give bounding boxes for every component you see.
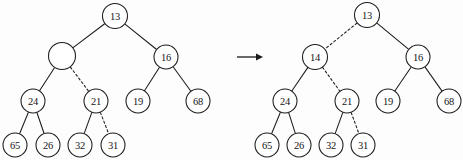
- node-label: 14: [310, 52, 321, 63]
- tree-node-68[interactable]: 68: [437, 89, 461, 113]
- tree-node-empty[interactable]: [49, 43, 76, 70]
- tree-node-21[interactable]: 21: [84, 89, 108, 113]
- node-label: 31: [358, 140, 368, 151]
- tree-edge-n21-n32: [84, 113, 92, 134]
- tree-edge-m14-m24: [292, 68, 308, 91]
- node-label: 19: [133, 96, 143, 107]
- tree-edge-m13-m16: [377, 23, 408, 49]
- tree-edge-nEmpty-n24: [40, 68, 55, 91]
- edges-layer: [20, 23, 442, 133]
- tree-node-68[interactable]: 68: [186, 89, 210, 113]
- tree-node-21[interactable]: 21: [335, 89, 359, 113]
- transformation-arrow: [237, 54, 263, 61]
- tree-edge-n13-n16: [125, 24, 156, 49]
- tree-node-65[interactable]: 65: [255, 133, 279, 157]
- tree-edge-n24-n26: [37, 113, 44, 134]
- tree-edge-n24-n65: [20, 112, 29, 133]
- node-label: 13: [110, 11, 120, 22]
- tree-node-26[interactable]: 26: [36, 133, 60, 157]
- tree-edge-m24-m65: [272, 112, 281, 133]
- tree-node-24[interactable]: 24: [21, 89, 45, 113]
- tree-edge-m13-m14: [325, 23, 357, 49]
- node-label: 21: [342, 96, 352, 107]
- tree-edge-m21-m32: [335, 113, 343, 134]
- tree-node-13[interactable]: 13: [355, 3, 380, 28]
- tree-node-26[interactable]: 26: [287, 133, 311, 157]
- tree-node-32[interactable]: 32: [319, 133, 343, 157]
- node-label: 31: [108, 140, 118, 151]
- tree-edge-n21-n31: [100, 113, 108, 134]
- tree-node-31[interactable]: 31: [101, 133, 125, 157]
- node-circle: [49, 43, 76, 70]
- tree-edge-m16-m19: [395, 67, 411, 91]
- tree-edge-n16-n68: [173, 67, 190, 91]
- tree-node-16[interactable]: 16: [406, 45, 430, 69]
- tree-node-24[interactable]: 24: [273, 89, 297, 113]
- tree-edge-m24-m26: [289, 113, 295, 133]
- node-label: 21: [91, 96, 101, 107]
- tree-edge-m21-m31: [351, 113, 359, 134]
- tree-edge-nEmpty-n21: [70, 67, 88, 91]
- node-label: 65: [10, 140, 20, 151]
- node-label: 24: [280, 96, 291, 107]
- binary-tree-canvas: 1316242119686526323113141624211968652632…: [0, 0, 463, 160]
- tree-edge-m14-m21: [323, 67, 340, 91]
- tree-node-19[interactable]: 19: [376, 89, 400, 113]
- node-label: 19: [383, 96, 393, 107]
- node-label: 68: [444, 96, 454, 107]
- tree-node-32[interactable]: 32: [68, 133, 92, 157]
- tree-edge-m16-m68: [425, 67, 442, 91]
- tree-edge-n16-n19: [145, 67, 160, 90]
- node-label: 24: [28, 96, 39, 107]
- tree-node-65[interactable]: 65: [3, 133, 27, 157]
- tree-edge-n13-nEmpty: [73, 24, 105, 48]
- nodes-layer: 1316242119686526323113141624211968652632…: [3, 3, 461, 158]
- arrow-head-icon: [256, 54, 263, 61]
- node-label: 65: [262, 140, 272, 151]
- tree-node-19[interactable]: 19: [126, 89, 150, 113]
- node-label: 68: [193, 96, 203, 107]
- tree-node-13[interactable]: 13: [103, 4, 128, 29]
- node-label: 13: [362, 10, 372, 21]
- node-label: 16: [413, 52, 423, 63]
- node-label: 32: [326, 140, 336, 151]
- node-label: 16: [161, 52, 171, 63]
- node-label: 32: [75, 140, 85, 151]
- tree-diagram-figure: 1316242119686526323113141624211968652632…: [0, 0, 463, 160]
- node-label: 26: [294, 140, 304, 151]
- tree-node-14[interactable]: 14: [303, 45, 328, 70]
- tree-node-31[interactable]: 31: [351, 133, 375, 157]
- tree-node-16[interactable]: 16: [154, 45, 178, 69]
- node-label: 26: [43, 140, 53, 151]
